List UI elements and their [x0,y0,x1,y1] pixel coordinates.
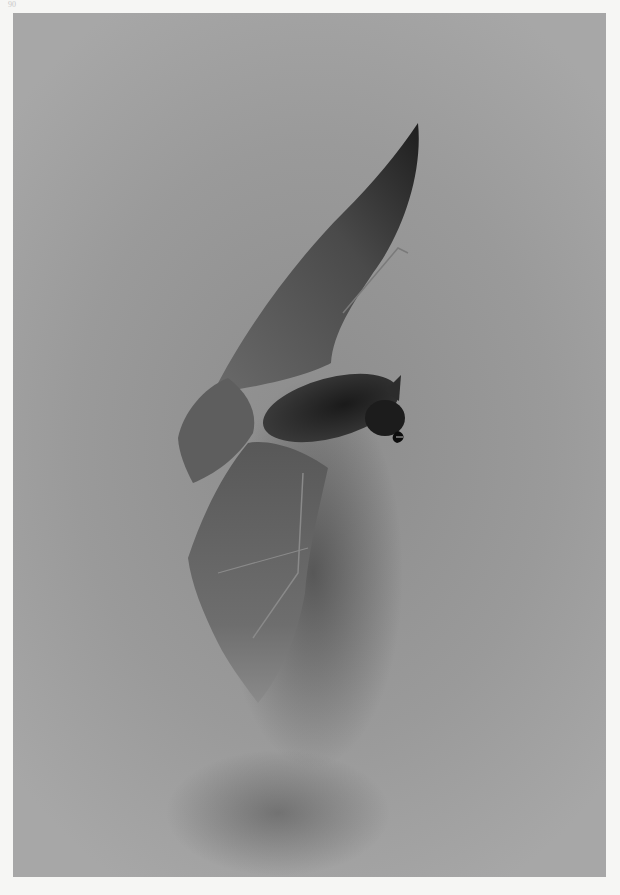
page-number: 90 [8,0,16,9]
bat-head [365,400,405,436]
photo-plate [13,13,606,877]
bat-illustration [13,13,606,877]
upper-wing [213,123,419,393]
lower-wing [188,442,328,703]
